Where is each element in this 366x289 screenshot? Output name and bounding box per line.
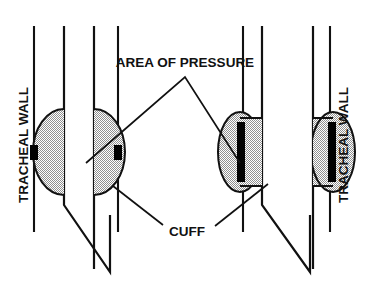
label-area-of-pressure: AREA OF PRESSURE [116,55,254,70]
diagram-canvas: TRACHEAL WALL TRACHEAL WALL AREA OF PRES… [0,0,366,289]
label-tracheal-wall-left: TRACHEAL WALL [16,87,31,203]
tracheal-cuff-diagram: TRACHEAL WALL TRACHEAL WALL AREA OF PRES… [0,0,366,289]
pressure-contact-left [30,145,38,160]
label-cuff: CUFF [169,224,205,239]
pressure-contact-bar-right [328,122,336,182]
pressure-contact-right [114,145,122,160]
pressure-contact-bar-left [237,122,245,182]
label-tracheal-wall-right: TRACHEAL WALL [336,87,351,203]
